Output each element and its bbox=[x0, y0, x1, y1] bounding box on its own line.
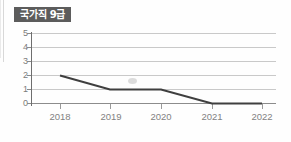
x-axis-labels: 2018 2019 2020 2021 2022 bbox=[0, 112, 291, 132]
x-tick-label: 2020 bbox=[150, 112, 171, 122]
y-axis-ticks bbox=[27, 34, 31, 104]
x-tick-label: 2022 bbox=[251, 112, 272, 122]
gridlines bbox=[31, 34, 276, 90]
x-tick-label: 2021 bbox=[201, 112, 222, 122]
x-axis-ticks bbox=[61, 104, 263, 109]
chart-screenshot: 국가직 9급 5 4 3 2 1 0 bbox=[0, 0, 291, 142]
chart-title-badge: 국가직 9급 bbox=[14, 7, 71, 22]
x-tick-label: 2019 bbox=[100, 112, 121, 122]
x-tick-label: 2018 bbox=[49, 112, 70, 122]
plot-area bbox=[0, 26, 291, 121]
line-chart: 5 4 3 2 1 0 bbox=[0, 26, 291, 142]
scan-smudge-artifact bbox=[128, 78, 137, 84]
